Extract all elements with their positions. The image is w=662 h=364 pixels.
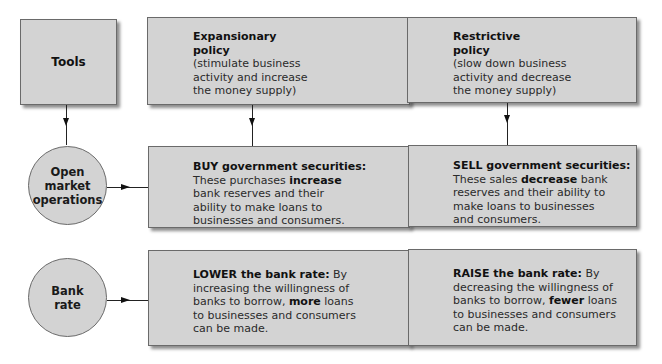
lower-line-1: LOWER the bank rate: By: [193, 268, 356, 282]
lower-line-3-pre: banks to borrow,: [193, 295, 289, 308]
lower-line-3: banks to borrow, more loans: [193, 295, 356, 309]
raise-bank-rate-text: RAISE the bank rate: By decreasing the w…: [453, 267, 617, 335]
bank-rate-circle: Bank rate: [28, 258, 107, 337]
sell-line-1-post: bank: [577, 173, 608, 186]
sell-line-1: These sales decrease bank: [453, 173, 630, 187]
raise-heading: RAISE the bank rate:: [453, 267, 582, 280]
buy-line-1-emphasis: increase: [289, 174, 341, 187]
sell-line-3: make loans to businesses: [453, 200, 630, 214]
tools-label: Tools: [51, 55, 85, 69]
lower-heading-post: By: [330, 268, 348, 281]
arrow-down-icon: [249, 118, 255, 126]
lower-bank-rate-text: LOWER the bank rate: By increasing the w…: [193, 268, 356, 336]
restrictive-desc-2: activity and decrease: [453, 71, 571, 85]
arrow-right-icon: [121, 297, 130, 303]
restrictive-title-2: policy: [453, 44, 571, 58]
sell-line-1-pre: These sales: [453, 173, 521, 186]
tools-box: Tools: [20, 19, 117, 105]
bank-rate-line-1: Bank: [51, 284, 83, 298]
open-market-operations-circle: Open market operations: [28, 146, 107, 225]
sell-securities-text: SELL government securities: These sales …: [453, 159, 630, 227]
lower-line-4: to businesses and consumers: [193, 309, 356, 323]
expansionary-desc-1: (stimulate business: [193, 57, 308, 71]
expansionary-policy-text: Expansionary policy (stimulate business …: [193, 30, 308, 98]
raise-heading-post: By: [582, 267, 600, 280]
buy-line-3: ability to make loans to: [193, 201, 366, 215]
expansionary-title-1: Expansionary: [193, 30, 308, 44]
expansionary-desc-3: the money supply): [193, 84, 308, 98]
raise-line-3-post: loans: [584, 294, 617, 307]
raise-line-2: decreasing the willingness of: [453, 281, 617, 295]
open-market-line-1: Open: [33, 165, 103, 179]
sell-line-1-emphasis: decrease: [521, 173, 577, 186]
restrictive-desc-3: the money supply): [453, 84, 571, 98]
raise-line-3-emphasis: fewer: [549, 294, 584, 307]
lower-heading: LOWER the bank rate:: [193, 268, 330, 281]
restrictive-desc-1: (slow down business: [453, 57, 571, 71]
restrictive-title-1: Restrictive: [453, 30, 571, 44]
raise-line-3-pre: banks to borrow,: [453, 294, 549, 307]
expansionary-title-2: policy: [193, 44, 308, 58]
buy-heading: BUY government securities:: [193, 160, 366, 174]
connector-restrictive-to-sell: [507, 103, 508, 145]
open-market-line-2: market: [33, 179, 103, 193]
bank-rate-line-2: rate: [51, 298, 83, 312]
restrictive-policy-text: Restrictive policy (slow down business a…: [453, 30, 571, 98]
sell-heading: SELL government securities:: [453, 159, 630, 173]
arrow-right-icon: [121, 184, 130, 190]
buy-line-4: businesses and consumers.: [193, 214, 366, 228]
buy-line-2: bank reserves and their: [193, 187, 366, 201]
lower-line-3-post: loans: [321, 295, 354, 308]
lower-line-2: increasing the willingness of: [193, 282, 356, 296]
arrow-down-icon: [63, 118, 69, 126]
arrow-down-icon: [504, 115, 510, 123]
raise-line-1: RAISE the bank rate: By: [453, 267, 617, 281]
raise-line-4: to businesses and consumers: [453, 308, 617, 322]
raise-line-5: can be made.: [453, 321, 617, 335]
lower-line-5: can be made.: [193, 322, 356, 336]
raise-line-3: banks to borrow, fewer loans: [453, 294, 617, 308]
open-market-line-3: operations: [33, 193, 103, 207]
sell-line-4: and consumers.: [453, 213, 630, 227]
buy-line-1-pre: These purchases: [193, 174, 289, 187]
sell-line-2: reserves and their ability to: [453, 186, 630, 200]
lower-line-3-emphasis: more: [289, 295, 321, 308]
expansionary-desc-2: activity and increase: [193, 71, 308, 85]
buy-securities-text: BUY government securities: These purchas…: [193, 160, 366, 228]
buy-line-1: These purchases increase: [193, 174, 366, 188]
